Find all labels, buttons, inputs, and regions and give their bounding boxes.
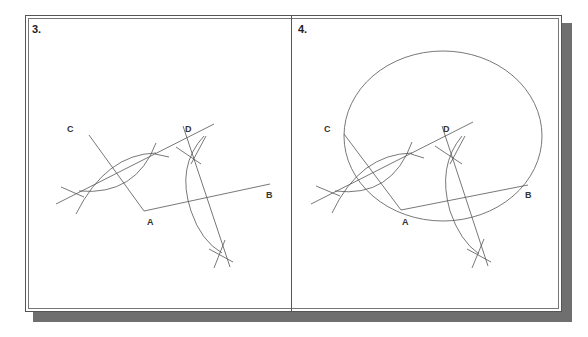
segment-ac [344,134,401,210]
construction-diagram-4: C D A B [292,16,560,313]
panel-step-4: 4. C D A B [292,16,560,311]
bisector-ac [56,124,214,204]
figure-frame: 3. C D A B [25,15,562,312]
tick-ab-top-b [450,136,465,164]
arc-ac-lower [79,143,156,191]
label-a: A [147,217,154,227]
circumcircle [344,51,542,221]
arc-ac-lower [335,142,412,192]
tick-ac-right [155,154,169,157]
label-b: B [525,190,532,200]
bisector-ac [311,122,473,204]
tick-ac-right [411,154,424,158]
label-a: A [402,217,409,227]
arc-ab [446,136,479,254]
arc-ab [186,136,222,253]
construction-diagram-3: C D A B [26,16,291,313]
arc-ac-upper [76,153,156,214]
label-c: C [324,124,331,134]
label-b: B [266,190,273,200]
tick-ab-bot-b [472,239,484,268]
arc-ac-upper [332,153,412,213]
tick-ab-top-b [191,136,206,164]
label-c: C [67,124,74,134]
label-d: D [185,124,192,134]
segment-ab [401,185,528,210]
tick-ab-bot-b [214,240,225,268]
label-d: D [443,124,450,134]
panel-step-3: 3. C D A B [26,16,291,311]
